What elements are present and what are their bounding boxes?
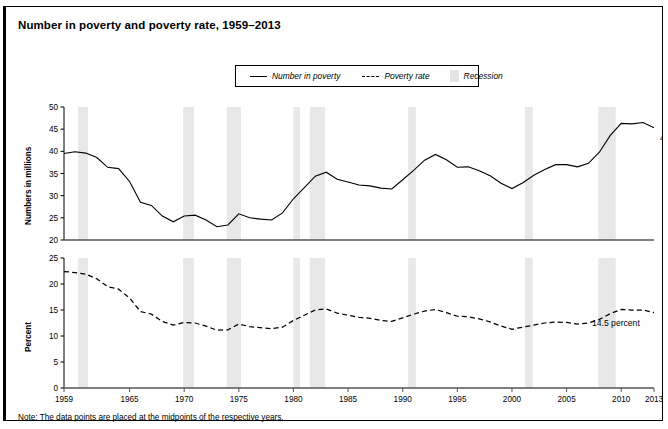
annotation-rate-last: 14.5 percent — [592, 318, 640, 328]
svg-text:25: 25 — [49, 254, 59, 263]
annotation-number-last: 45.3 million — [660, 133, 662, 143]
svg-text:1980: 1980 — [284, 395, 303, 404]
chart-canvas: 2025303540455005101520251959196519701975… — [6, 7, 662, 407]
svg-text:1975: 1975 — [230, 395, 249, 404]
figure-note: Note: The data points are placed at the … — [18, 413, 284, 422]
svg-text:1995: 1995 — [448, 395, 467, 404]
svg-text:40: 40 — [49, 147, 59, 156]
figure-frame: Number in poverty and poverty rate, 1959… — [3, 6, 663, 421]
svg-text:35: 35 — [49, 170, 59, 179]
svg-text:15: 15 — [49, 306, 59, 315]
svg-text:2010: 2010 — [612, 395, 631, 404]
svg-text:1985: 1985 — [339, 395, 358, 404]
chart-tick-labels: 2025303540455005101520251959196519701975… — [49, 103, 662, 404]
svg-text:45: 45 — [49, 125, 59, 134]
recession-bands-bottom — [78, 258, 616, 388]
svg-text:2005: 2005 — [557, 395, 576, 404]
svg-text:5: 5 — [53, 358, 58, 367]
svg-text:2000: 2000 — [503, 395, 522, 404]
svg-text:50: 50 — [49, 103, 59, 112]
svg-text:20: 20 — [49, 280, 59, 289]
svg-text:0: 0 — [53, 384, 58, 393]
series-line-poverty-rate — [64, 272, 654, 331]
svg-text:1990: 1990 — [394, 395, 413, 404]
svg-text:20: 20 — [49, 236, 59, 245]
svg-text:1965: 1965 — [120, 395, 139, 404]
svg-text:10: 10 — [49, 332, 59, 341]
series-line-number-in-poverty — [64, 123, 654, 227]
svg-text:1970: 1970 — [175, 395, 194, 404]
svg-text:2013: 2013 — [645, 395, 662, 404]
chart-axes — [61, 107, 655, 392]
svg-text:1959: 1959 — [55, 395, 74, 404]
svg-text:30: 30 — [49, 192, 59, 201]
recession-bands-top — [78, 107, 616, 240]
svg-text:25: 25 — [49, 214, 59, 223]
